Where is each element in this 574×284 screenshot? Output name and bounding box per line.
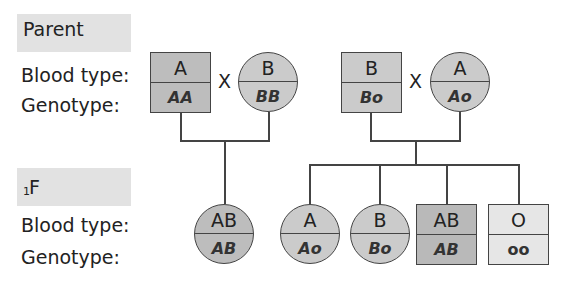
blood-type: AB xyxy=(195,205,253,234)
blood-type: B xyxy=(351,205,409,234)
genotype: BB xyxy=(239,81,297,111)
blood-type: AB xyxy=(417,205,476,235)
f1-blood-type-label: Blood type: xyxy=(21,214,130,236)
parent2-female-circle: A Ao xyxy=(430,52,490,112)
cross-symbol: X xyxy=(409,70,422,92)
f1-child-square: O oo xyxy=(488,204,549,265)
blood-type: A xyxy=(151,53,210,83)
genotype: oo xyxy=(489,234,548,265)
f1-header-main: F xyxy=(29,176,40,198)
blood-type: B xyxy=(342,53,401,83)
cross-symbol: X xyxy=(218,70,231,92)
connector-line xyxy=(309,164,311,204)
blood-type: A xyxy=(281,205,339,234)
parent-genotype-label: Genotype: xyxy=(21,94,120,116)
connector-line xyxy=(224,140,226,204)
parent-header-text: Parent xyxy=(23,18,84,40)
connector-line xyxy=(379,164,381,204)
f1-child-circle: B Bo xyxy=(350,204,410,264)
genotype: AA xyxy=(151,82,210,113)
parent-blood-type-label: Blood type: xyxy=(21,64,130,86)
parent-header: Parent xyxy=(17,14,131,52)
genotype: AB xyxy=(195,233,253,263)
connector-line xyxy=(459,112,461,141)
connector-line xyxy=(446,164,448,204)
f1-genotype-label: Genotype: xyxy=(21,246,120,268)
parent2-male-square: B Bo xyxy=(341,52,402,113)
parent1-female-circle: B BB xyxy=(238,52,298,112)
genotype: Ao xyxy=(431,81,489,111)
f1-header: F1 xyxy=(17,168,131,206)
sibling-line xyxy=(309,164,520,166)
connector-line xyxy=(415,140,417,165)
parent1-male-square: A AA xyxy=(150,52,211,113)
genotype: AB xyxy=(417,234,476,265)
f1-child-square: AB AB xyxy=(416,204,477,265)
genotype: Bo xyxy=(351,233,409,263)
f1-child-circle: AB AB xyxy=(194,204,254,264)
blood-type: O xyxy=(489,205,548,235)
connector-line xyxy=(370,113,372,141)
connector-line xyxy=(268,112,270,141)
blood-type: A xyxy=(431,53,489,82)
blood-type: B xyxy=(239,53,297,82)
genotype: Bo xyxy=(342,82,401,113)
f1-header-text: F1 xyxy=(23,172,30,198)
f1-child-circle: A Ao xyxy=(280,204,340,264)
connector-line xyxy=(518,164,520,204)
connector-line xyxy=(180,113,182,141)
genotype: Ao xyxy=(281,233,339,263)
